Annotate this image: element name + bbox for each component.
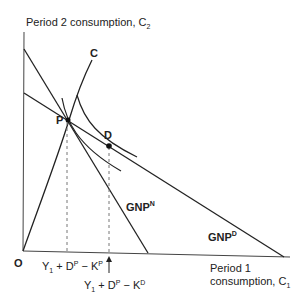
origin-label: O bbox=[14, 257, 23, 269]
x-axis-label-line2: consumption, C1 bbox=[210, 275, 290, 289]
point-d-label: D bbox=[104, 129, 112, 141]
point-p bbox=[66, 118, 71, 123]
diagram-canvas: Period 2 consumption, C2 Period 1 consum… bbox=[0, 0, 307, 305]
production-curve-c bbox=[23, 60, 92, 251]
gnp-d-label: GNPD bbox=[208, 230, 237, 243]
curve-c-label: C bbox=[90, 47, 98, 59]
point-d bbox=[106, 143, 112, 149]
gnp-n-line bbox=[24, 49, 148, 253]
x-marker-d-label: Y1 + DP − KD bbox=[84, 279, 145, 293]
gnp-n-label: GNPN bbox=[126, 200, 155, 213]
x-axis bbox=[23, 251, 290, 257]
y-axis-label: Period 2 consumption, C2 bbox=[26, 16, 150, 30]
arrow-head-icon bbox=[106, 256, 112, 262]
point-p-label: P bbox=[56, 114, 63, 126]
x-axis-label-line1: Period 1 bbox=[210, 262, 251, 274]
x-marker-p-label: Y1 + DP − KP bbox=[42, 260, 103, 274]
y-axis bbox=[23, 32, 24, 251]
